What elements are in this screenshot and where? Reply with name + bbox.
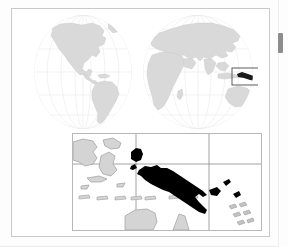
vertical-scrollbar-thumb[interactable] [278,33,283,53]
world-locator-map [26,11,258,133]
page-canvas [0,0,288,247]
figure-frame [11,8,270,237]
western-hemisphere [34,15,132,129]
eastern-hemisphere [143,15,258,129]
papua-new-guinea-detail-map [72,133,262,231]
vertical-scrollbar-track[interactable] [278,0,286,247]
